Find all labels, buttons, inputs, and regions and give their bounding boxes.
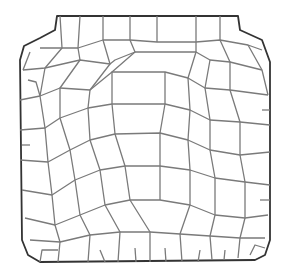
cell-diagram [0, 0, 295, 275]
cell-walls [20, 16, 270, 262]
cell-network-drawing [0, 0, 295, 275]
